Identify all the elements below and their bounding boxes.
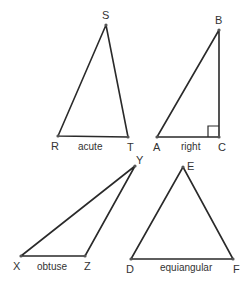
vertex-F (231, 257, 234, 260)
vertex-label-D: D (126, 263, 134, 275)
right-triangle-outline (157, 30, 219, 137)
vertex-S (104, 23, 107, 26)
vertex-R (56, 134, 59, 137)
caption-obtuse: obtuse (37, 261, 67, 272)
vertex-Z (83, 254, 86, 257)
vertex-label-Z: Z (84, 260, 91, 272)
vertex-label-X: X (13, 260, 21, 272)
caption-equiangular: equiangular (160, 262, 213, 273)
vertex-X (19, 254, 22, 257)
vertex-label-A: A (153, 141, 161, 153)
vertex-label-R: R (51, 140, 59, 152)
vertex-T (126, 135, 129, 138)
vertex-C (217, 135, 220, 138)
vertex-label-T: T (127, 141, 134, 153)
vertex-label-F: F (233, 263, 240, 275)
vertex-B (217, 28, 220, 31)
vertex-label-S: S (102, 9, 109, 21)
caption-right: right (181, 141, 201, 152)
vertex-label-E: E (187, 160, 194, 172)
vertex-E (181, 165, 184, 168)
obtuse-triangle: Y X Z obtuse (13, 154, 144, 272)
vertex-label-Y: Y (136, 154, 144, 166)
obtuse-triangle-outline (21, 166, 135, 256)
caption-acute: acute (78, 141, 103, 152)
equiangular-triangle-outline (131, 167, 233, 259)
vertex-label-C: C (218, 141, 226, 153)
acute-triangle-outline (58, 25, 128, 137)
equiangular-triangle: E D F equiangular (126, 160, 240, 275)
triangle-classification-diagram: S R T acute B A C right Y X Z obtuse E D… (0, 0, 250, 291)
right-triangle: B A C right (153, 14, 226, 153)
right-angle-marker (208, 126, 219, 137)
vertex-D (129, 257, 132, 260)
acute-triangle: S R T acute (51, 9, 134, 153)
vertex-label-B: B (215, 14, 222, 26)
vertex-A (155, 135, 158, 138)
